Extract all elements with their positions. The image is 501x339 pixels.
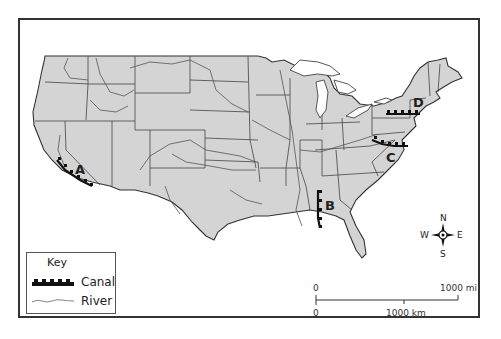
us-outline <box>33 56 462 258</box>
canal-label-a: A <box>75 162 85 177</box>
compass-s: S <box>440 249 446 259</box>
scale-km-start: 0 <box>313 308 319 318</box>
key-label-canal: Canal <box>81 275 115 289</box>
scale-bar: 0 1000 mi 0 1000 km <box>313 283 477 318</box>
compass-rose: N S E W <box>420 213 463 259</box>
canal-label-d: D <box>413 95 424 110</box>
compass-e: E <box>457 230 463 240</box>
scale-mi-start: 0 <box>313 283 319 293</box>
river-symbol <box>32 297 74 305</box>
canal-label-b: B <box>325 198 335 213</box>
map-key: Key Canal River <box>26 252 116 314</box>
canal-label-c: C <box>386 150 396 165</box>
canal-symbol <box>32 279 74 289</box>
key-title: Key <box>27 256 87 269</box>
compass-w: W <box>420 230 429 240</box>
scale-mi-end: 1000 mi <box>440 283 477 293</box>
key-label-river: River <box>81 294 112 308</box>
scale-km-mid: 1000 km <box>386 308 426 318</box>
compass-n: N <box>440 213 447 223</box>
